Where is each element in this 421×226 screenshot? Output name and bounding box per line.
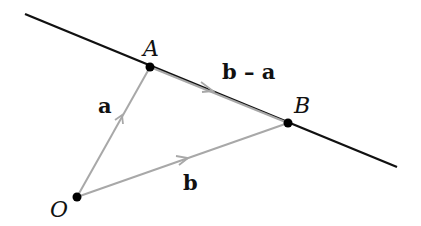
label-B: B [293,93,310,118]
vector-diagram: O A B a b b – a [0,0,421,226]
label-b-minus-a: b – a [222,59,276,84]
point-O [73,193,82,202]
point-A [146,63,155,72]
label-A: A [141,36,159,61]
point-B [284,119,293,128]
label-a: a [98,93,112,118]
label-O: O [50,197,68,222]
vector-a [77,67,150,197]
label-b: b [183,170,198,195]
